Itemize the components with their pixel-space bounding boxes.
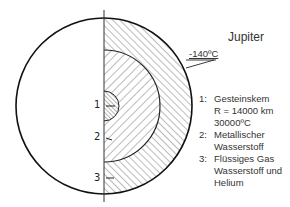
marker-1-label: 1 [94,99,100,111]
diagram-title: Jupiter [228,31,264,43]
temperature-leader-line [186,60,214,68]
legend-3-number: 3: [199,153,207,165]
marker-2-label: 2 [94,131,100,143]
legend-2-line-1: Metallischer [214,129,265,141]
legend-3-line-3: Helium [214,177,244,189]
legend-1-number: 1: [199,93,207,105]
legend-1-line-1: Gesteinskem [214,93,269,105]
legend-2-line-2: Wasserstoff [214,141,264,153]
marker-3-label: 3 [94,172,100,184]
jupiter-diagram: 1 2 3 Jupiter -140ºC 1: Gesteinskem R = … [0,0,290,207]
legend-3-line-1: Flüssiges Gas [214,153,274,165]
legend-3-line-2: Wasserstoff und [214,165,282,177]
legend-1-line-3: 30000ºC [214,117,251,129]
legend-2-number: 2: [199,129,207,141]
surface-temperature-label: -140ºC [189,48,218,60]
legend-1-line-2: R = 14000 km [214,105,273,117]
